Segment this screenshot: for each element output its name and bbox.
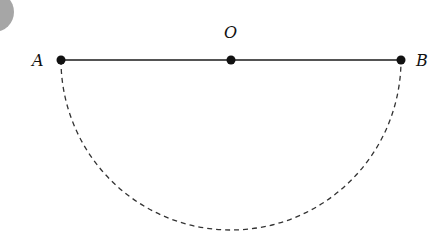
point-a bbox=[57, 56, 66, 65]
label-o: O bbox=[224, 23, 237, 42]
label-a: A bbox=[30, 51, 44, 70]
label-b: B bbox=[415, 51, 428, 70]
semicircle-diagram: A O B bbox=[0, 0, 447, 234]
corner-badge bbox=[0, 0, 14, 32]
point-o bbox=[227, 56, 236, 65]
dashed-semicircle-arc bbox=[61, 60, 401, 230]
point-b bbox=[397, 56, 406, 65]
